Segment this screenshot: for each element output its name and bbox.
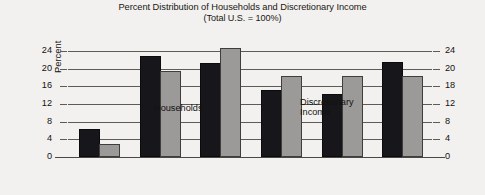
gridline — [68, 122, 432, 123]
y-axis-label-right: 12 — [445, 99, 467, 108]
y-axis-label-left: 20 — [30, 64, 52, 73]
gridline — [68, 139, 432, 140]
y-axis-label-left: 4 — [30, 134, 52, 143]
chart-title-line2: (Total U.S. = 100%) — [0, 13, 485, 24]
chart-title: Percent Distribution of Households and D… — [0, 2, 485, 24]
y-axis-label-right: 8 — [445, 117, 467, 126]
axis-tick-right — [433, 122, 440, 123]
bar-households — [79, 129, 100, 158]
annotation-discretionary-income: Discretionary Income — [300, 97, 354, 117]
annotation-households: Households — [154, 103, 203, 113]
y-axis-label-left: 16 — [30, 81, 52, 90]
axis-tick-right — [433, 104, 440, 105]
chart-title-line1: Percent Distribution of Households and D… — [0, 2, 485, 13]
axis-tick-left — [60, 139, 67, 140]
bar-discretionary-income — [281, 76, 302, 158]
axis-tick-left — [60, 122, 67, 123]
y-axis-label-right: 0 — [445, 152, 467, 161]
axis-tick-left — [60, 69, 67, 70]
bar-discretionary-income — [160, 71, 181, 157]
y-axis-label-left: 8 — [30, 117, 52, 126]
bar-discretionary-income — [99, 144, 120, 157]
axis-tick-right — [433, 69, 440, 70]
bar-discretionary-income — [402, 76, 423, 157]
axis-tick-right — [433, 139, 440, 140]
axis-tick-right — [433, 86, 440, 87]
bar-discretionary-income — [220, 48, 241, 157]
gridline — [68, 104, 432, 105]
y-axis-label-right: 18 — [445, 81, 467, 90]
axis-tick-right — [433, 51, 440, 52]
axis-tick-left — [60, 104, 67, 105]
axis-tick-left — [60, 86, 67, 87]
y-axis-label-right: 20 — [445, 64, 467, 73]
y-axis-label-right: 4 — [445, 134, 467, 143]
bar-households — [382, 62, 403, 157]
y-axis-label-left: 24 — [30, 46, 52, 55]
x-axis-baseline — [55, 157, 445, 158]
y-axis-label-right: 24 — [445, 46, 467, 55]
gridline — [68, 86, 432, 87]
y-axis-label-left: 12 — [30, 99, 52, 108]
gridline — [68, 69, 432, 70]
bar-households — [261, 90, 282, 157]
axis-tick-left — [60, 51, 67, 52]
plot-area: Percent 2424202016181212884400 Under 252… — [68, 51, 432, 157]
y-axis-label-left: 0 — [30, 152, 52, 161]
gridline — [68, 51, 432, 52]
bar-households — [200, 63, 221, 157]
